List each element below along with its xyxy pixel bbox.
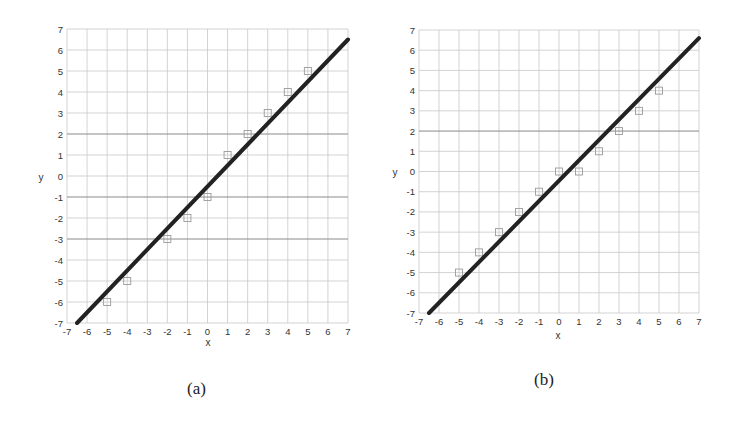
x-tick-label: -7	[415, 316, 423, 327]
y-tick-label: 1	[58, 150, 63, 161]
caption-b: (b)	[534, 370, 554, 390]
x-tick-label: 4	[636, 316, 641, 327]
x-tick-label: 4	[285, 326, 290, 337]
y-tick-label: -5	[55, 276, 63, 287]
x-tick-label: 5	[305, 326, 310, 337]
y-tick-label: 2	[58, 129, 63, 140]
x-tick-label: 7	[345, 326, 350, 337]
y-tick-label: 4	[410, 85, 415, 96]
y-tick-label: 0	[58, 171, 63, 182]
x-tick-label: -6	[83, 326, 91, 337]
y-tick-label: -4	[407, 247, 415, 258]
y-tick-label: -3	[55, 234, 63, 245]
y-tick-label: 2	[410, 126, 415, 137]
y-tick-label: 5	[410, 65, 415, 76]
y-tick-label: -1	[55, 192, 63, 203]
x-tick-label: 6	[676, 316, 681, 327]
y-tick-label: 3	[410, 105, 415, 116]
y-tick-label: -7	[55, 318, 63, 329]
x-tick-label: -2	[515, 316, 523, 327]
x-tick-label: -4	[123, 326, 131, 337]
x-tick-label: 3	[265, 326, 270, 337]
x-tick-label: -6	[435, 316, 443, 327]
scatter-chart-b: -7-6-5-4-3-2-101234567-7-6-5-4-3-2-10123…	[368, 0, 737, 422]
grid	[67, 29, 348, 323]
y-tick-label: 3	[58, 108, 63, 119]
y-tick-label: 0	[410, 166, 415, 177]
y-tick-label: 5	[58, 66, 63, 77]
x-tick-label: 6	[325, 326, 330, 337]
x-tick-label: 2	[245, 326, 250, 337]
x-tick-label: 0	[556, 316, 561, 327]
y-tick-label: 6	[410, 45, 415, 56]
axis-ticks: -7-6-5-4-3-2-101234567-7-6-5-4-3-2-10123…	[55, 24, 351, 338]
y-tick-label: -5	[407, 267, 415, 278]
x-axis-label: x	[206, 337, 211, 348]
figure-panel-b: -7-6-5-4-3-2-101234567-7-6-5-4-3-2-10123…	[368, 0, 737, 422]
fitted-line	[429, 38, 699, 313]
x-tick-label: 3	[616, 316, 621, 327]
y-tick-label: -2	[55, 213, 63, 224]
y-tick-label: -3	[407, 227, 415, 238]
caption-a: (a)	[187, 379, 206, 399]
axis-ticks: -7-6-5-4-3-2-101234567-7-6-5-4-3-2-10123…	[407, 25, 702, 328]
x-tick-label: 7	[696, 316, 701, 327]
x-tick-label: -1	[183, 326, 191, 337]
x-tick-label: -3	[143, 326, 151, 337]
y-tick-label: -6	[407, 287, 415, 298]
y-tick-label: -1	[407, 186, 415, 197]
x-tick-label: -2	[163, 326, 171, 337]
x-tick-label: -4	[475, 316, 483, 327]
y-axis-label: y	[393, 167, 398, 178]
x-tick-label: 0	[205, 326, 210, 337]
figure-panel-a: -7-6-5-4-3-2-101234567-7-6-5-4-3-2-10123…	[0, 0, 368, 422]
y-tick-label: -7	[407, 308, 415, 319]
scatter-chart-a: -7-6-5-4-3-2-101234567-7-6-5-4-3-2-10123…	[0, 0, 368, 422]
y-tick-label: 7	[410, 25, 415, 36]
x-tick-label: -7	[63, 326, 71, 337]
x-tick-label: -5	[103, 326, 111, 337]
y-tick-label: 7	[58, 24, 63, 35]
x-tick-label: -5	[455, 316, 463, 327]
y-tick-label: 4	[58, 87, 63, 98]
y-axis-label: y	[39, 172, 44, 183]
x-tick-label: 5	[656, 316, 661, 327]
x-axis-label: x	[556, 330, 561, 341]
x-tick-label: 1	[576, 316, 581, 327]
grid	[419, 30, 699, 313]
y-tick-label: -4	[55, 255, 63, 266]
y-tick-label: -2	[407, 206, 415, 217]
y-tick-label: 6	[58, 45, 63, 56]
x-tick-label: 2	[596, 316, 601, 327]
y-tick-label: 1	[410, 146, 415, 157]
x-tick-label: -1	[535, 316, 543, 327]
x-tick-label: -3	[495, 316, 503, 327]
fitted-line	[77, 40, 348, 324]
y-tick-label: -6	[55, 297, 63, 308]
x-tick-label: 1	[225, 326, 230, 337]
